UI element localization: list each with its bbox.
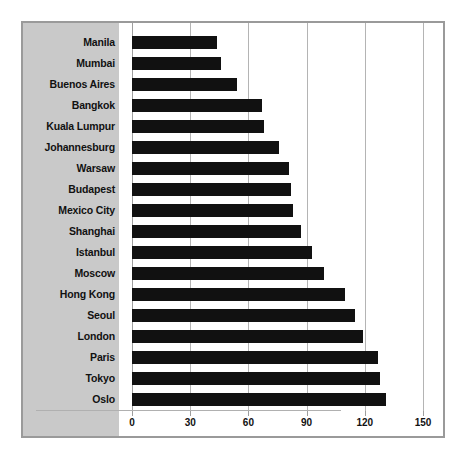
bar-track <box>119 179 443 200</box>
bar-track <box>119 242 443 263</box>
bar-row: Mumbai <box>23 53 443 74</box>
bar-row: Mexico City <box>23 200 443 221</box>
bar-track <box>119 53 443 74</box>
bar <box>132 393 386 406</box>
x-tick-label: 150 <box>403 417 443 428</box>
category-label: Buenos Aires <box>23 74 115 95</box>
bar <box>132 183 291 196</box>
bar <box>132 330 363 343</box>
bar-track <box>119 326 443 347</box>
bar-row: Johannesburg <box>23 137 443 158</box>
x-tick-label: 120 <box>345 417 385 428</box>
tick-mark-150 <box>423 411 424 416</box>
tick-mark-60 <box>248 411 249 416</box>
category-label: Paris <box>23 347 115 368</box>
tick-mark-90 <box>307 411 308 416</box>
bar-row: Istanbul <box>23 242 443 263</box>
bar-row: Oslo <box>23 389 443 410</box>
bar-row: Kuala Lumpur <box>23 116 443 137</box>
x-tick-label: 60 <box>228 417 268 428</box>
category-label: Johannesburg <box>23 137 115 158</box>
bar-row: Warsaw <box>23 158 443 179</box>
category-label: Bangkok <box>23 95 115 116</box>
bar <box>132 99 262 112</box>
bar <box>132 162 289 175</box>
x-axis-line <box>36 410 341 411</box>
bar-row: London <box>23 326 443 347</box>
tick-mark-0 <box>132 411 133 416</box>
bar-row: Tokyo <box>23 368 443 389</box>
bar-row: Bangkok <box>23 95 443 116</box>
x-tick-label: 90 <box>287 417 327 428</box>
bar-track <box>119 284 443 305</box>
category-label: Mexico City <box>23 200 115 221</box>
bar <box>132 204 293 217</box>
chart-frame: ManilaMumbaiBuenos AiresBangkokKuala Lum… <box>21 21 445 438</box>
bar-track <box>119 158 443 179</box>
category-label: Mumbai <box>23 53 115 74</box>
category-label: Moscow <box>23 263 115 284</box>
bar-row: Buenos Aires <box>23 74 443 95</box>
bar-row: Seoul <box>23 305 443 326</box>
bar <box>132 57 221 70</box>
bar <box>132 246 312 259</box>
category-label: Kuala Lumpur <box>23 116 115 137</box>
bar <box>132 36 217 49</box>
bar-row: Hong Kong <box>23 284 443 305</box>
tick-mark-120 <box>365 411 366 416</box>
tick-mark-30 <box>190 411 191 416</box>
category-label: Manila <box>23 32 115 53</box>
category-label: Istanbul <box>23 242 115 263</box>
bar <box>132 309 355 322</box>
bar-track <box>119 116 443 137</box>
bar-track <box>119 32 443 53</box>
bar-row: Shanghai <box>23 221 443 242</box>
bar-track <box>119 263 443 284</box>
bar <box>132 372 380 385</box>
bar-track <box>119 200 443 221</box>
bar-track <box>119 221 443 242</box>
bar <box>132 141 279 154</box>
bar-track <box>119 305 443 326</box>
x-tick-label: 30 <box>170 417 210 428</box>
bar-row: Moscow <box>23 263 443 284</box>
category-label: Budapest <box>23 179 115 200</box>
bar-track <box>119 347 443 368</box>
bar <box>132 225 301 238</box>
bar-track <box>119 95 443 116</box>
category-label: Tokyo <box>23 368 115 389</box>
category-label: London <box>23 326 115 347</box>
category-label: Hong Kong <box>23 284 115 305</box>
x-tick-label: 0 <box>112 417 152 428</box>
bar-row: Budapest <box>23 179 443 200</box>
bar-track <box>119 368 443 389</box>
bar-track <box>119 74 443 95</box>
bar <box>132 78 237 91</box>
bar-row: Paris <box>23 347 443 368</box>
category-label: Warsaw <box>23 158 115 179</box>
category-label: Seoul <box>23 305 115 326</box>
bar <box>132 267 324 280</box>
bar <box>132 351 378 364</box>
category-label: Shanghai <box>23 221 115 242</box>
category-label: Oslo <box>23 389 115 410</box>
bar-track <box>119 389 443 410</box>
bar-track <box>119 137 443 158</box>
bar-row: Manila <box>23 32 443 53</box>
bar <box>132 288 345 301</box>
bar <box>132 120 264 133</box>
